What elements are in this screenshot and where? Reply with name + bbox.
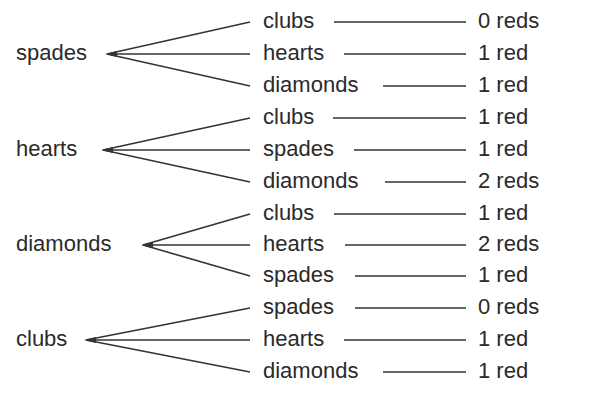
branch-line (143, 245, 250, 276)
branch-line (103, 118, 250, 150)
leaf-node-label: clubs (263, 9, 314, 33)
branch-line (107, 22, 250, 54)
leaf-node-label: clubs (263, 105, 314, 129)
root-node-label: diamonds (16, 232, 111, 256)
leaf-node-label: spades (263, 263, 334, 287)
leaf-node-label: hearts (263, 232, 324, 256)
outcome-result-label: 1 red (478, 137, 528, 161)
outcome-result-label: 1 red (478, 73, 528, 97)
outcome-result-label: 1 red (478, 327, 528, 351)
branch-line (86, 340, 250, 372)
leaf-node-label: clubs (263, 201, 314, 225)
leaf-node-label: diamonds (263, 359, 358, 383)
outcome-result-label: 2 reds (478, 232, 539, 256)
outcome-result-label: 1 red (478, 359, 528, 383)
root-node-label: spades (16, 41, 87, 65)
leaf-node-label: diamonds (263, 73, 358, 97)
branch-vertex-icon (101, 147, 113, 153)
outcome-result-label: 1 red (478, 201, 528, 225)
leaf-node-label: hearts (263, 41, 324, 65)
branch-vertex-icon (141, 242, 153, 248)
branch-line (107, 54, 250, 86)
leaf-node-label: hearts (263, 327, 324, 351)
outcome-result-label: 0 reds (478, 295, 539, 319)
outcome-result-label: 2 reds (478, 169, 539, 193)
root-node-label: clubs (16, 327, 67, 351)
leaf-node-label: spades (263, 295, 334, 319)
outcome-result-label: 0 reds (478, 9, 539, 33)
leaf-node-label: diamonds (263, 169, 358, 193)
outcome-result-label: 1 red (478, 105, 528, 129)
root-node-label: hearts (16, 137, 77, 161)
outcome-result-label: 1 red (478, 41, 528, 65)
branch-line (103, 150, 250, 182)
branch-line (143, 214, 250, 245)
branch-line (86, 308, 250, 340)
branch-vertex-icon (84, 337, 96, 343)
leaf-node-label: spades (263, 137, 334, 161)
outcome-result-label: 1 red (478, 263, 528, 287)
branch-vertex-icon (105, 51, 117, 57)
